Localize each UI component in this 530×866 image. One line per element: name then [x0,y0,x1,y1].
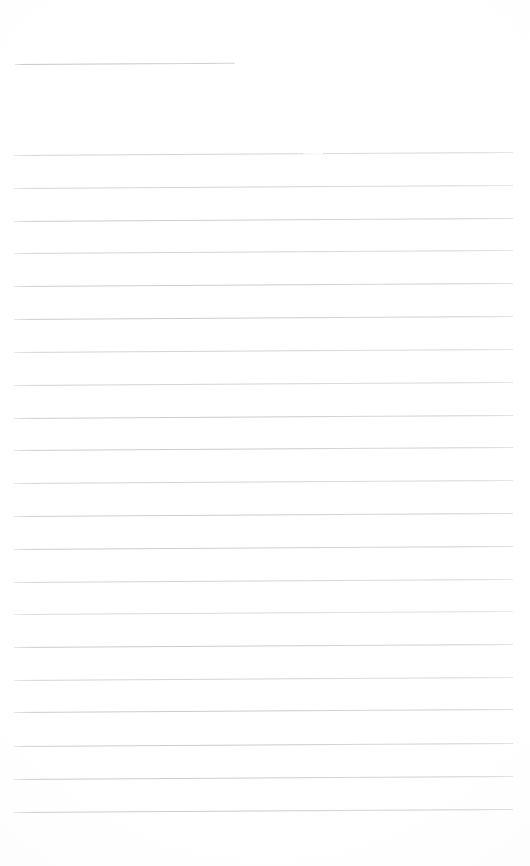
ruled-line [14,250,513,254]
ruled-line [14,743,513,747]
ruled-line [14,447,513,451]
ruled-line [14,644,513,648]
ruled-line [14,218,513,222]
ruled-line [14,677,513,681]
ruled-line [14,283,513,287]
ruled-line [14,415,513,419]
header-rule [15,63,235,65]
ruled-line [14,709,513,713]
ruled-line [14,611,513,615]
paper-texture-overlay [0,0,530,866]
ruled-line [14,382,513,386]
ruled-line [14,546,513,550]
ruled-line [14,513,513,517]
ruled-line [14,152,513,156]
ruled-line [14,776,513,780]
ruled-line [14,316,513,320]
ruled-line [14,349,513,353]
ruled-line [14,185,513,189]
ruled-line [14,809,513,813]
ruled-line [14,480,513,484]
scanned-page [0,0,530,866]
ruled-line [14,579,513,583]
